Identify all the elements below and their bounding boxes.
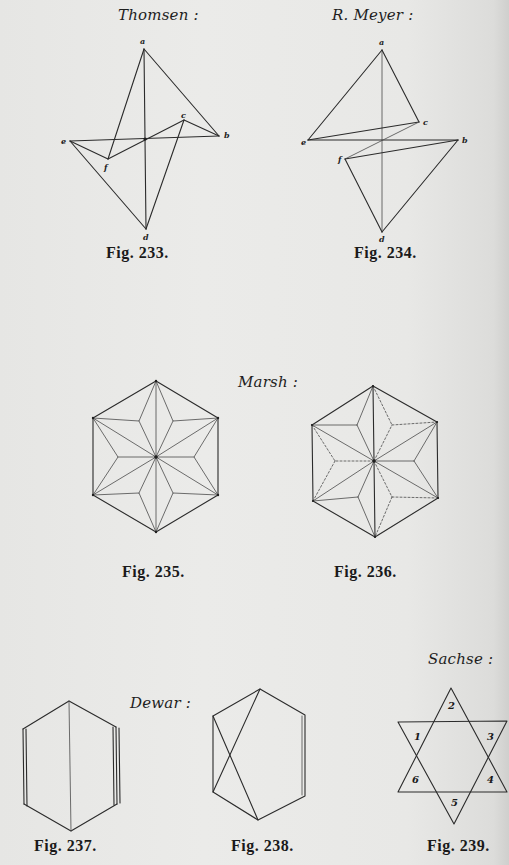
- fig234-label-c: c: [423, 117, 428, 127]
- fig-238-diagram: [213, 689, 305, 820]
- fig233-label-b: b: [224, 130, 230, 140]
- fig-233-diagram: [70, 49, 219, 229]
- caption-fig-234: Fig. 234.: [354, 244, 417, 262]
- fig239-region-3: 3: [487, 731, 494, 742]
- fig239-region-4: 4: [487, 774, 494, 785]
- author-dewar: Dewar :: [130, 694, 191, 712]
- fig234-label-b: b: [462, 135, 468, 145]
- fig234-label-a: a: [379, 37, 384, 47]
- fig239-region-5: 5: [451, 797, 458, 808]
- fig233-label-c: c: [181, 110, 186, 120]
- author-thomsen: Thomsen :: [118, 6, 199, 24]
- author-sachse: Sachse :: [428, 650, 493, 668]
- fig234-label-d: d: [379, 234, 385, 244]
- caption-fig-233: Fig. 233.: [106, 244, 169, 262]
- figure-drawings: [0, 0, 509, 865]
- fig-235-diagram: [92, 380, 219, 533]
- fig239-region-6: 6: [412, 774, 419, 785]
- fig233-label-a: a: [140, 36, 145, 46]
- book-page: Thomsen : R. Meyer : Marsh : Dewar : Sac…: [0, 0, 509, 865]
- fig-236-diagram: [311, 385, 439, 538]
- fig239-region-1: 1: [414, 731, 421, 742]
- fig239-region-2: 2: [448, 700, 455, 711]
- fig233-label-f: f: [104, 162, 107, 172]
- caption-fig-235: Fig. 235.: [122, 563, 185, 581]
- caption-fig-238: Fig. 238.: [231, 837, 294, 855]
- author-marsh: Marsh :: [238, 373, 298, 391]
- author-r-meyer: R. Meyer :: [332, 6, 413, 24]
- caption-fig-237: Fig. 237.: [34, 837, 97, 855]
- caption-fig-236: Fig. 236.: [334, 563, 397, 581]
- fig233-label-d: d: [143, 232, 149, 242]
- fig-237-diagram: [23, 701, 120, 831]
- fig234-label-e: e: [301, 137, 306, 147]
- fig234-label-f: f: [338, 154, 341, 164]
- fig233-label-e: e: [61, 136, 66, 146]
- fig-234-diagram: [308, 50, 458, 232]
- caption-fig-239: Fig. 239.: [427, 837, 490, 855]
